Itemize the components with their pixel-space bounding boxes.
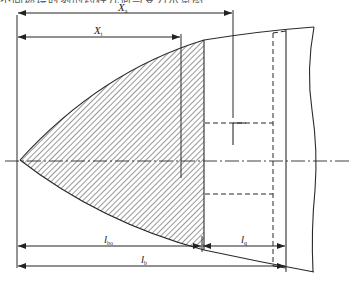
label-xt-sub: t xyxy=(101,31,103,37)
label-lq-sub: q xyxy=(244,240,247,246)
break-edge xyxy=(309,27,316,272)
label-lb-sub: b xyxy=(144,260,147,266)
label-xa-main: X xyxy=(118,1,125,13)
label-lbo: lbo xyxy=(104,234,113,249)
label-lb: lb xyxy=(141,254,147,269)
label-xt-main: X xyxy=(94,24,101,36)
label-xa-sub: a xyxy=(125,8,128,14)
diagram-canvas xyxy=(0,0,358,288)
hatched-region xyxy=(20,40,204,250)
label-xt: Xt xyxy=(94,25,102,40)
label-xa: Xa xyxy=(118,2,127,17)
label-lbo-sub: bo xyxy=(107,240,113,246)
dashed-outline xyxy=(205,31,286,268)
label-lq: lq xyxy=(241,234,247,249)
